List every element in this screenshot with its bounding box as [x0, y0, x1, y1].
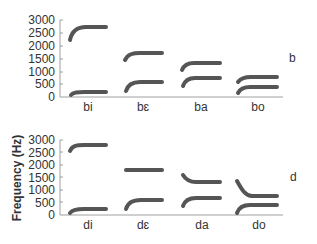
- panel-label-d: d: [290, 170, 297, 184]
- formant-de-f1: [126, 200, 162, 209]
- category-da: da: [195, 218, 209, 232]
- ytick-1000: 1000: [28, 183, 55, 197]
- top-categories: bi bɛ ba bo: [83, 100, 265, 114]
- formant-be-f2: [125, 53, 162, 60]
- formant-bo-f1: [238, 87, 277, 93]
- category-be: bɛ: [137, 100, 150, 114]
- ytick-0: 0: [48, 208, 55, 222]
- ytick-1500: 1500: [28, 52, 55, 66]
- formant-da-f2: [183, 175, 220, 182]
- top-y-ticks: 3000 2500 2000 1500 1000 500 0: [28, 13, 55, 104]
- ytick-3000: 3000: [28, 133, 55, 147]
- bottom-y-ticks: 3000 2500 2000 1500 1000 500 0: [28, 133, 55, 222]
- top-chart: 3000 2500 2000 1500 1000 500 0: [28, 13, 296, 114]
- top-formants: [70, 27, 277, 95]
- category-do: do: [252, 218, 266, 232]
- formant-da-f1: [183, 198, 220, 206]
- ytick-500: 500: [35, 77, 55, 91]
- formant-di-f1: [70, 209, 106, 213]
- formant-do-f1: [237, 205, 277, 213]
- bottom-chart: Frequency (Hz) 3000 2500 2000 1500 1000 …: [10, 133, 297, 232]
- formant-bo-f2: [238, 77, 277, 82]
- formant-ba-f2: [182, 63, 220, 70]
- formant-ba-f1: [183, 78, 220, 86]
- ytick-0: 0: [48, 90, 55, 104]
- ytick-3000: 3000: [28, 13, 55, 27]
- bottom-formants: [70, 145, 277, 213]
- spectrogram-figure: 3000 2500 2000 1500 1000 500 0: [0, 0, 317, 244]
- formant-be-f1: [126, 82, 162, 91]
- formant-do-f2: [237, 181, 277, 196]
- category-de: dɛ: [137, 218, 150, 232]
- formant-di-f2: [70, 145, 106, 151]
- ytick-2500: 2500: [28, 26, 55, 40]
- ytick-2000: 2000: [28, 39, 55, 53]
- category-bi: bi: [83, 100, 92, 114]
- bottom-categories: di dɛ da do: [83, 218, 266, 232]
- ytick-2000: 2000: [28, 158, 55, 172]
- y-axis-title: Frequency (Hz): [10, 135, 24, 222]
- category-bo: bo: [251, 100, 265, 114]
- formant-bi-f1: [71, 92, 106, 95]
- formant-bi-f2: [70, 27, 106, 40]
- panel-label-b: b: [289, 51, 296, 65]
- category-ba: ba: [194, 100, 208, 114]
- category-di: di: [83, 218, 92, 232]
